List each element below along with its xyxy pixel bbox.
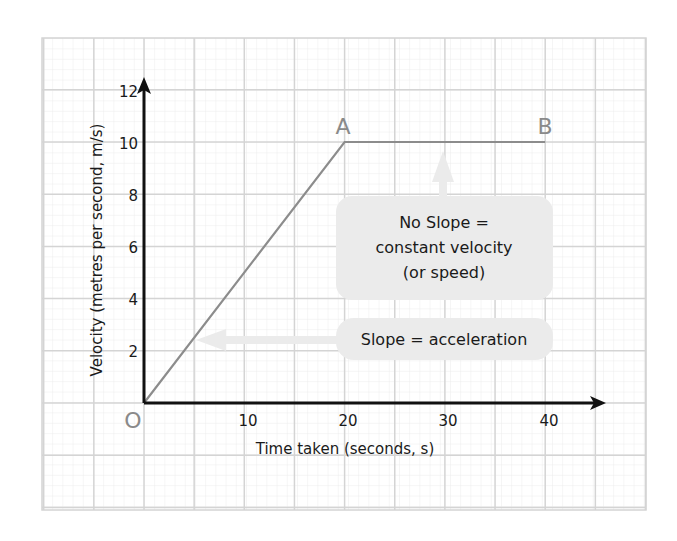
callout-no-slope-line-2: constant velocity <box>375 238 512 257</box>
y-tick-label: 4 <box>128 291 138 309</box>
callout-no-slope-line-3: (or speed) <box>403 263 485 282</box>
x-tick-label: 20 <box>338 412 357 430</box>
y-tick-label: 10 <box>119 135 138 153</box>
point-b-label: B <box>537 114 552 139</box>
y-tick-label: 6 <box>128 239 138 257</box>
velocity-time-chart: 10 20 30 40 2 4 6 8 10 12 Time taken (se… <box>0 0 677 541</box>
y-tick-label: 8 <box>128 187 138 205</box>
x-tick-label: 10 <box>238 412 257 430</box>
x-tick-label: 30 <box>438 412 457 430</box>
y-tick-label: 2 <box>128 343 138 361</box>
y-axis-title: Velocity (metres per second, m/s) <box>88 124 106 377</box>
callout-no-slope-line-1: No Slope = <box>399 213 489 232</box>
x-axis-title: Time taken (seconds, s) <box>255 440 435 458</box>
origin-label: O <box>124 408 141 433</box>
x-tick-label: 40 <box>539 412 558 430</box>
point-a-label: A <box>335 114 350 139</box>
callout-slope-text: Slope = acceleration <box>361 330 528 349</box>
y-tick-label: 12 <box>119 83 138 101</box>
